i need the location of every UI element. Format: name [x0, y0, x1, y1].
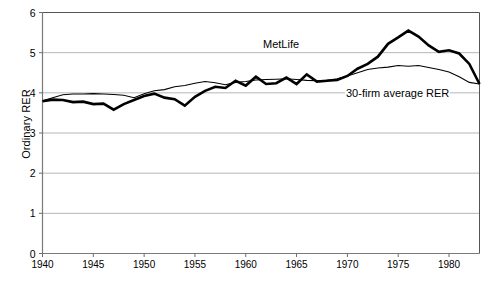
- gridlines: [43, 53, 480, 214]
- axis-ticks: [39, 13, 449, 258]
- plot-area: [0, 0, 494, 293]
- series-label-30-firm-average: 30-firm average RER: [345, 87, 450, 99]
- series-label-metlife: MetLife: [262, 38, 300, 50]
- chart-figure: Ordinary RER 6 5 4 3 2 1 0 1940 1945 195…: [0, 0, 494, 293]
